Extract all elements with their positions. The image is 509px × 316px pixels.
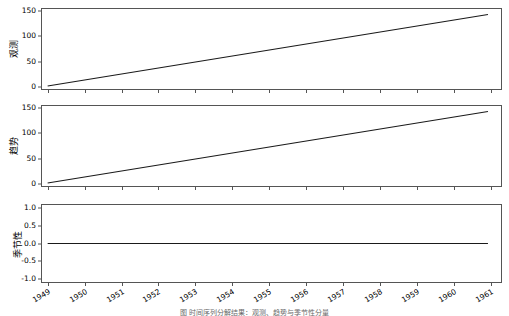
series-observed: [48, 15, 488, 87]
x-tick-mark: [491, 283, 492, 286]
y-tick-mark-seasonal: [38, 261, 41, 262]
x-tick-mark: [48, 187, 49, 190]
y-axis-label-trend: 趋势: [10, 137, 19, 155]
x-tick-mark: [454, 187, 455, 190]
x-tick-mark: [454, 90, 455, 93]
x-tick-label: 1959: [400, 288, 420, 304]
x-tick-mark: [380, 187, 381, 190]
x-tick-mark: [85, 283, 86, 286]
x-tick-mark: [491, 90, 492, 93]
x-tick-label: 1957: [327, 288, 347, 304]
x-tick-mark: [158, 187, 159, 190]
x-tick-mark: [195, 90, 196, 93]
y-tick-label-observed: 50: [26, 58, 36, 66]
x-tick-mark: [269, 187, 270, 190]
x-tick-mark: [380, 283, 381, 286]
x-tick-label: 1955: [253, 288, 273, 304]
y-tick-mark-trend: [38, 108, 41, 109]
y-axis-label-observed: 观测: [10, 40, 19, 58]
y-tick-mark-observed: [38, 36, 41, 37]
data-line-seasonal: [41, 204, 502, 283]
x-tick-mark: [195, 283, 196, 286]
data-line-observed: [41, 8, 502, 90]
series-trend: [48, 112, 488, 184]
x-tick-mark: [343, 283, 344, 286]
x-tick-mark: [122, 283, 123, 286]
x-tick-mark: [195, 187, 196, 190]
y-tick-mark-trend: [38, 133, 41, 134]
x-tick-mark: [417, 187, 418, 190]
data-line-trend: [41, 105, 502, 187]
x-tick-label: 1961: [474, 288, 494, 304]
x-tick-mark: [158, 90, 159, 93]
x-tick-mark: [85, 90, 86, 93]
y-tick-mark-observed: [38, 11, 41, 12]
x-tick-mark: [232, 187, 233, 190]
y-tick-mark-trend: [38, 158, 41, 159]
y-tick-label-observed: 0: [31, 83, 36, 91]
x-tick-mark: [269, 90, 270, 93]
x-tick-mark: [343, 90, 344, 93]
y-tick-label-trend: 100: [22, 130, 36, 138]
x-tick-mark: [269, 283, 270, 286]
x-tick-mark: [306, 187, 307, 190]
y-tick-mark-observed: [38, 61, 41, 62]
y-tick-label-trend: 150: [22, 105, 36, 113]
y-tick-label-seasonal: -1.0: [21, 275, 36, 283]
x-tick-label: 1951: [105, 288, 125, 304]
x-tick-label: 1953: [179, 288, 199, 304]
x-tick-mark: [48, 90, 49, 93]
x-tick-mark: [417, 283, 418, 286]
chart-panel-trend: 趋势 050100150: [41, 105, 502, 187]
chart-panel-seasonal: 季节性 1.00.50.0-0.5-1.01949195019511952195…: [41, 204, 502, 283]
x-tick-label: 1950: [68, 288, 88, 304]
y-tick-mark-seasonal: [38, 225, 41, 226]
y-tick-label-trend: 50: [26, 155, 36, 163]
y-tick-mark-seasonal: [38, 208, 41, 209]
y-tick-label-seasonal: 1.0: [24, 204, 36, 212]
y-tick-label-seasonal: 0.5: [24, 222, 36, 230]
x-tick-mark: [380, 90, 381, 93]
y-tick-label-observed: 100: [22, 33, 36, 41]
y-tick-mark-trend: [38, 183, 41, 184]
x-tick-mark: [48, 283, 49, 286]
x-tick-mark: [122, 187, 123, 190]
y-tick-label-seasonal: -0.5: [21, 257, 36, 265]
x-tick-mark: [417, 90, 418, 93]
figure-caption-clipped: 图 时间序列分解结果：观测、趋势与季节性分量: [0, 309, 509, 316]
figure-canvas: 观测 050100150 趋势 050100150 季节性 1.00.50.0-…: [0, 0, 509, 316]
x-tick-mark: [122, 90, 123, 93]
x-tick-mark: [232, 283, 233, 286]
y-tick-label-trend: 0: [31, 180, 36, 188]
x-tick-label: 1958: [364, 288, 384, 304]
x-tick-mark: [232, 90, 233, 93]
y-tick-mark-seasonal: [38, 278, 41, 279]
y-tick-mark-observed: [38, 86, 41, 87]
x-tick-mark: [306, 90, 307, 93]
x-tick-mark: [491, 187, 492, 190]
x-tick-mark: [454, 283, 455, 286]
x-tick-mark: [85, 187, 86, 190]
x-tick-label: 1954: [216, 288, 236, 304]
chart-panel-observed: 观测 050100150: [41, 8, 502, 90]
x-tick-label: 1956: [290, 288, 310, 304]
x-tick-mark: [343, 187, 344, 190]
x-tick-label: 1949: [31, 288, 51, 304]
x-tick-mark: [306, 283, 307, 286]
x-tick-label: 1952: [142, 288, 162, 304]
y-tick-label-observed: 150: [22, 8, 36, 16]
y-axis-label-seasonal: 季节性: [14, 230, 23, 257]
y-tick-mark-seasonal: [38, 243, 41, 244]
y-tick-label-seasonal: 0.0: [24, 240, 36, 248]
x-tick-mark: [158, 283, 159, 286]
x-tick-label: 1960: [437, 288, 457, 304]
